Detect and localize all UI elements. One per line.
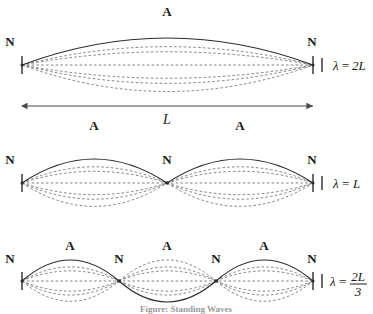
standing-waves-diagram: N N A λ = 2L L <box>0 0 373 314</box>
wavelength-value-1: 2L <box>352 58 366 73</box>
harmonic-group-3: N N N N A A A λ = 2L 3 <box>5 238 367 302</box>
node-dot-2-2 <box>312 182 315 185</box>
node-label-2-0: N <box>5 152 15 167</box>
dimension-label: L <box>162 112 171 127</box>
node-label-3-0: N <box>5 251 15 266</box>
node-label-2-1: N <box>162 152 172 167</box>
envelope-dashed-3-2-dn-a <box>119 281 216 291</box>
node-dot-3-0 <box>21 280 24 283</box>
wavelength-label-1: λ = 2L <box>322 58 366 73</box>
antinode-label-2-1: A <box>235 118 245 133</box>
envelope-dashed-3-3-dn-a <box>216 281 313 291</box>
antinode-label-3-2: A <box>259 238 269 253</box>
envelope-dashed-upper-1b <box>22 47 313 65</box>
node-dot-1-0 <box>21 64 24 67</box>
envelope-dashed-2-R-up-b <box>167 167 313 183</box>
envelope-dashed-2-L-up-b <box>22 167 167 183</box>
equals-symbol-3: = <box>339 274 346 289</box>
figure-caption: Figure: Standing Waves <box>140 304 233 314</box>
envelope-dashed-2-L-dn-a <box>22 183 167 195</box>
node-label-3-1: N <box>114 251 124 266</box>
lambda-symbol-3: λ <box>329 274 336 289</box>
envelope-dashed-upper-1a <box>22 52 313 65</box>
node-dot-3-1 <box>117 279 121 283</box>
wavelength-label-2: λ = L <box>322 176 360 191</box>
envelope-dashed-3-2-up-b <box>119 267 216 281</box>
antinode-label-3-0: A <box>65 238 75 253</box>
node-dot-2-0 <box>21 182 24 185</box>
envelope-dashed-3-3-up-b <box>216 267 313 281</box>
wavelength-label-3: λ = 2L 3 <box>322 269 367 299</box>
length-dimension: L <box>22 106 313 127</box>
wavelength-value-2: L <box>352 176 360 191</box>
envelope-dashed-3-2-dn-b <box>119 281 216 295</box>
envelope-dashed-3-1-dn-a <box>22 281 119 291</box>
wavelength-numerator-3: 2L <box>351 269 365 284</box>
envelope-dashed-2-R-up-a <box>167 171 313 183</box>
envelope-dashed-3-2-up-a <box>119 271 216 281</box>
node-label-3-3: N <box>307 251 317 266</box>
node-label-2-2: N <box>307 152 317 167</box>
harmonic-group-1: N N A λ = 2L <box>5 4 365 92</box>
envelope-dashed-3-3-dn-b <box>216 281 313 295</box>
equals-symbol-2: = <box>342 176 349 191</box>
envelope-dashed-2-L-up-a <box>22 171 167 183</box>
envelope-dashed-lower-1a <box>22 65 313 78</box>
envelope-dashed-2-L-dn-b <box>22 183 167 199</box>
harmonic-group-2: N N N A A λ = L <box>5 118 360 206</box>
envelope-dashed-2-R-dn-b <box>167 183 313 199</box>
envelope-dashed-3-3-up-a <box>216 271 313 281</box>
node-dot-1-1 <box>312 64 315 67</box>
envelope-dashed-3-1-up-a <box>22 271 119 281</box>
node-dot-3-2 <box>214 279 218 283</box>
node-dot-2-1 <box>165 181 169 185</box>
node-label-1-0: N <box>5 34 15 49</box>
envelope-dashed-3-1-up-b <box>22 267 119 281</box>
antinode-label-2-0: A <box>89 118 99 133</box>
envelope-dashed-3-1-dn-b <box>22 281 119 295</box>
envelope-dashed-lower-1b <box>22 65 313 83</box>
node-label-3-2: N <box>211 251 221 266</box>
node-label-1-1: N <box>307 34 317 49</box>
equals-symbol-1: = <box>342 58 349 73</box>
envelope-dashed-2-R-dn-a <box>167 183 313 195</box>
lambda-symbol-1: λ <box>332 58 339 73</box>
wavelength-denominator-3: 3 <box>354 284 362 299</box>
antinode-label-3-1: A <box>162 238 172 253</box>
node-dot-3-3 <box>312 280 315 283</box>
standing-waves-figure: N N A λ = 2L L <box>0 0 373 314</box>
antinode-label-1-0: A <box>162 4 172 19</box>
lambda-symbol-2: λ <box>332 176 339 191</box>
